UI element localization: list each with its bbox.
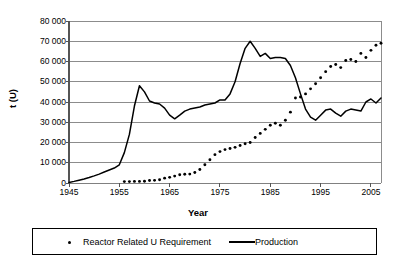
x-axis-title: Year bbox=[0, 207, 396, 218]
gridlines bbox=[69, 21, 381, 183]
x-tick-label: 1995 bbox=[301, 188, 341, 197]
y-axis-line bbox=[66, 21, 69, 183]
chart-figure: t (U) 80 00070 00060 00050 00040 00030 0… bbox=[0, 0, 396, 269]
legend-label-production: Production bbox=[255, 237, 298, 247]
x-tick-label: 1955 bbox=[99, 188, 139, 197]
x-tick-label: 1985 bbox=[250, 188, 290, 197]
legend-label-requirement: Reactor Related U Requirement bbox=[83, 237, 211, 247]
dot-marker-icon bbox=[63, 237, 77, 247]
legend-item-production: Production bbox=[229, 229, 298, 254]
x-tick-label: 1945 bbox=[49, 188, 89, 197]
x-tick-label: 1965 bbox=[150, 188, 190, 197]
x-tick-label: 1975 bbox=[200, 188, 240, 197]
x-tick-label: 2005 bbox=[351, 188, 391, 197]
series-production-line bbox=[69, 41, 381, 182]
solid-line-icon bbox=[229, 237, 255, 247]
chart-legend: Reactor Related U Requirement Production bbox=[32, 228, 377, 255]
legend-item-requirement: Reactor Related U Requirement bbox=[63, 229, 211, 254]
